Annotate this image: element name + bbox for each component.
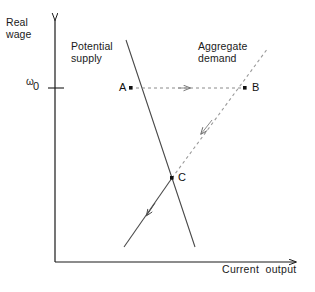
y-axis-tick-label: ω0 [26,78,40,91]
point-label-b: B [252,81,259,93]
point-label-a: A [119,81,126,93]
point-marker-c [170,176,174,180]
aggregate-demand-dashed-curve [172,48,268,178]
aggregate-demand-solid-segment [124,178,172,247]
point-marker-b [243,86,247,90]
aggregate-demand-label: Aggregate demand [198,40,247,64]
y-axis-label: Real wage [6,16,32,40]
omega-subscript: 0 [33,80,39,92]
economics-diagram: Real wage Current output ω0 Potential su… [0,0,315,292]
potential-supply-label: Potential supply [71,40,113,64]
potential-supply-curve [126,40,195,247]
aggregate-demand-dashed-arrow [201,120,212,134]
diagram-canvas [0,0,315,292]
x-axis-label: Current output [222,263,297,275]
aggregate-demand-solid-arrow [147,203,155,215]
point-label-c: C [178,171,186,183]
point-marker-a [129,86,133,90]
